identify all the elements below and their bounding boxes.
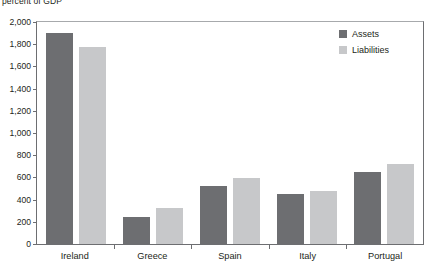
bar-liabilities-greece — [156, 208, 183, 244]
x-axis-label-portugal: Portugal — [346, 248, 424, 264]
bar-liabilities-portugal — [387, 164, 414, 244]
y-axis-tick: 1,400 — [9, 84, 37, 94]
legend-swatch-icon — [339, 46, 347, 54]
legend-label: Assets — [352, 29, 379, 39]
bar-group — [269, 22, 346, 244]
chart-legend: AssetsLiabilities — [339, 27, 389, 59]
bar-assets-italy — [277, 194, 304, 245]
x-axis-label-greece: Greece — [114, 248, 192, 264]
bar-group — [114, 22, 191, 244]
x-axis-labels: IrelandGreeceSpainItalyPortugal — [36, 248, 424, 264]
x-axis-label-italy: Italy — [269, 248, 347, 264]
x-axis-label-ireland: Ireland — [36, 248, 114, 264]
y-axis-caption: percent of GDP — [2, 0, 62, 6]
y-axis-tick: 600 — [17, 172, 37, 182]
y-axis-tick: 1,000 — [9, 128, 37, 138]
y-axis-tick: 1,800 — [9, 39, 37, 49]
y-axis-tick: 2,000 — [9, 17, 37, 27]
legend-item-assets: Assets — [339, 27, 389, 41]
bar-assets-spain — [200, 186, 227, 244]
bar-group — [191, 22, 268, 244]
bar-liabilities-spain — [233, 178, 260, 244]
bar-assets-ireland — [46, 33, 73, 244]
y-axis-tick: 800 — [17, 150, 37, 160]
bar-liabilities-italy — [310, 191, 337, 245]
y-axis-tick: 1,600 — [9, 61, 37, 71]
legend-item-liabilities: Liabilities — [339, 43, 389, 57]
bar-group — [37, 22, 114, 244]
bar-chart: percent of GDP 02004006008001,0001,2001,… — [0, 0, 428, 267]
y-axis-tick: 200 — [17, 217, 37, 227]
bar-assets-greece — [123, 217, 150, 244]
y-axis-tick: 1,200 — [9, 106, 37, 116]
legend-swatch-icon — [339, 30, 347, 38]
bar-liabilities-ireland — [79, 47, 106, 244]
bar-assets-portugal — [354, 172, 381, 244]
legend-label: Liabilities — [352, 45, 389, 55]
y-axis-tick: 400 — [17, 195, 37, 205]
x-axis-label-spain: Spain — [191, 248, 269, 264]
